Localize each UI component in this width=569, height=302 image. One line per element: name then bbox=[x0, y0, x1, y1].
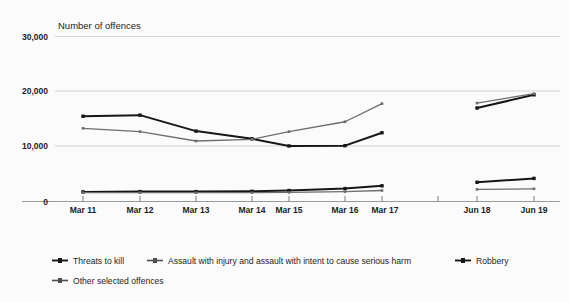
data-point bbox=[139, 130, 142, 133]
data-point bbox=[532, 177, 535, 180]
xtick-label-mar-11: Mar 11 bbox=[70, 205, 97, 215]
series-line-2-seg-0 bbox=[83, 186, 382, 192]
data-point bbox=[475, 106, 478, 109]
legend-label-1: Assault with injury and assault with int… bbox=[168, 256, 411, 266]
data-point bbox=[251, 191, 254, 194]
xtick-label-mar-17: Mar 17 bbox=[372, 205, 399, 215]
data-point bbox=[475, 181, 478, 184]
data-point bbox=[476, 102, 479, 105]
legend-swatch-marker-2 bbox=[461, 258, 465, 263]
data-point bbox=[381, 189, 384, 192]
xtick-label-mar-16: Mar 16 bbox=[332, 205, 359, 215]
legend-item-robbery[interactable]: Robbery bbox=[455, 256, 509, 266]
xtick-label-mar-12: Mar 12 bbox=[127, 205, 154, 215]
ytick-label-0: 0 bbox=[43, 197, 48, 207]
x-axis-tick-labels: Mar 11 Mar 12 Mar 13 Mar 14 Mar 15 Mar 1… bbox=[70, 205, 548, 215]
data-point bbox=[81, 115, 84, 118]
data-point bbox=[288, 130, 291, 133]
y-axis-tick-labels: 30,000 20,000 10,000 0 bbox=[22, 32, 48, 208]
series-line-3-seg-1 bbox=[477, 189, 534, 190]
data-point bbox=[194, 129, 197, 132]
gridlines bbox=[55, 37, 560, 147]
data-point bbox=[82, 127, 85, 130]
data-point bbox=[343, 187, 346, 190]
legend-swatch-marker-0 bbox=[58, 258, 62, 263]
data-point bbox=[380, 184, 383, 187]
data-point bbox=[344, 120, 347, 123]
legend-swatch-marker-1 bbox=[153, 258, 157, 263]
data-point bbox=[533, 188, 536, 191]
data-point bbox=[533, 92, 536, 95]
data-point bbox=[82, 191, 85, 194]
data-point bbox=[195, 140, 198, 143]
xtick-label-mar-13: Mar 13 bbox=[183, 205, 210, 215]
xtick-label-mar-15: Mar 15 bbox=[276, 205, 303, 215]
legend-item-threats-to-kill[interactable]: Threats to kill bbox=[52, 256, 124, 266]
data-point bbox=[251, 138, 254, 141]
data-point bbox=[343, 144, 346, 147]
data-point bbox=[381, 102, 384, 105]
legend-item-other-selected-offences[interactable]: Other selected offences bbox=[52, 276, 164, 286]
xtick-label-jun-18: Jun 18 bbox=[464, 205, 491, 215]
x-tick-marks bbox=[83, 196, 534, 202]
data-point bbox=[138, 113, 141, 116]
legend-swatch-marker-3 bbox=[58, 278, 62, 283]
chart-title: Number of offences bbox=[58, 20, 141, 31]
ytick-label-30000: 30,000 bbox=[22, 32, 48, 42]
data-point bbox=[476, 188, 479, 191]
ytick-label-20000: 20,000 bbox=[22, 86, 48, 96]
line-chart: 30,000 20,000 10,000 0 Mar 11 Mar 12 Mar… bbox=[0, 0, 569, 302]
data-point bbox=[288, 191, 291, 194]
series-layer bbox=[81, 92, 535, 194]
chart-figure: 30,000 20,000 10,000 0 Mar 11 Mar 12 Mar… bbox=[0, 0, 569, 302]
legend-label-0: Threats to kill bbox=[73, 256, 124, 266]
data-point bbox=[195, 191, 198, 194]
data-point bbox=[139, 191, 142, 194]
xtick-label-jun-19: Jun 19 bbox=[521, 205, 548, 215]
xtick-label-mar-14: Mar 14 bbox=[239, 205, 266, 215]
legend-label-3: Other selected offences bbox=[73, 276, 164, 286]
legend-label-2: Robbery bbox=[476, 256, 509, 266]
data-point bbox=[344, 190, 347, 193]
data-point bbox=[287, 144, 290, 147]
ytick-label-10000: 10,000 bbox=[22, 141, 48, 151]
data-point bbox=[380, 131, 383, 134]
series-line-2-seg-1 bbox=[477, 178, 534, 182]
chart-legend: Threats to kill Assault with injury and … bbox=[52, 256, 509, 286]
legend-item-assault-with-injury[interactable]: Assault with injury and assault with int… bbox=[147, 256, 411, 266]
